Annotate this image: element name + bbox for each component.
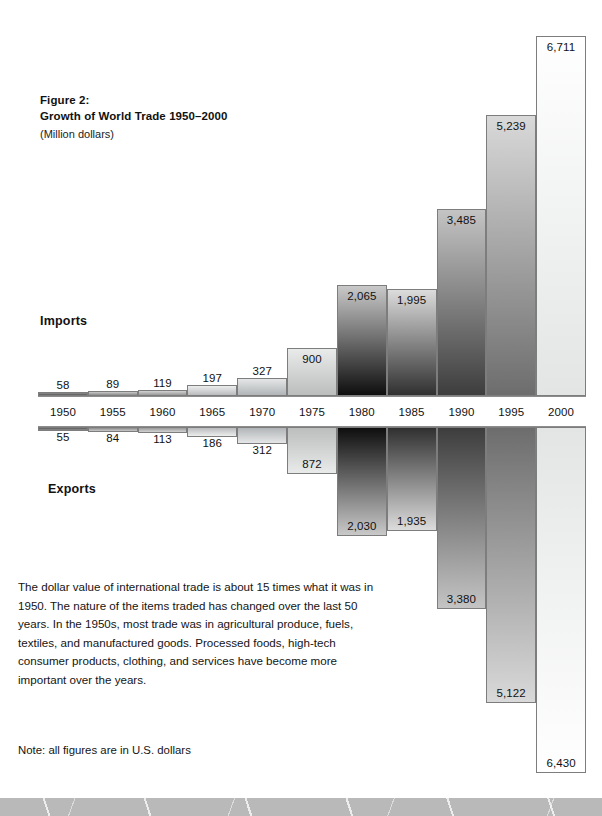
year-label-1990: 1990 [437, 396, 487, 427]
figure-note: Note: all figures are in U.S. dollars [18, 742, 378, 758]
export-bar-1970: 312 [237, 427, 287, 444]
import-bar-1970: 327 [237, 378, 287, 396]
import-value-label-1970: 327 [252, 365, 272, 377]
export-value-label-1990: 3,380 [447, 593, 476, 605]
export-bar-1975: 872 [287, 427, 337, 474]
export-bar-1965: 186 [187, 427, 237, 437]
year-label-1965: 1965 [187, 396, 237, 427]
year-label-1970: 1970 [237, 396, 287, 427]
export-value-label-1980: 2,030 [347, 520, 376, 532]
body-paragraph: The dollar value of international trade … [18, 578, 378, 690]
year-tick-labels: 1950195519601965197019751980198519901995… [38, 396, 586, 427]
export-value-label-1950: 55 [56, 431, 69, 443]
import-value-label-1960: 119 [153, 377, 172, 389]
export-bar-1955: 84 [88, 427, 138, 432]
export-value-label-1995: 5,122 [497, 687, 526, 699]
year-label-1960: 1960 [138, 396, 188, 427]
export-bar-1995: 5,122 [486, 427, 536, 703]
export-value-label-2000: 6,430 [546, 757, 575, 769]
year-label-1955: 1955 [88, 396, 138, 427]
year-label-1950: 1950 [38, 396, 88, 427]
year-label-1975: 1975 [287, 396, 337, 427]
year-label-1995: 1995 [486, 396, 536, 427]
import-value-label-1965: 197 [203, 372, 223, 384]
export-value-label-1965: 186 [203, 437, 223, 449]
import-value-label-1990: 3,485 [447, 214, 476, 226]
export-bar-1980: 2,030 [337, 427, 387, 536]
export-bar-1990: 3,380 [437, 427, 487, 609]
export-value-label-1960: 113 [153, 433, 172, 445]
footer-decoration-band [0, 798, 602, 816]
import-bar-1995: 5,239 [486, 115, 536, 396]
export-value-label-1985: 1,935 [397, 515, 426, 527]
import-bar-1975: 900 [287, 348, 337, 396]
import-value-label-1995: 5,239 [497, 120, 526, 132]
export-value-label-1975: 872 [302, 458, 322, 470]
import-bar-1985: 1,995 [387, 289, 437, 396]
import-bar-1965: 197 [187, 385, 237, 396]
import-value-label-1975: 900 [302, 353, 322, 365]
export-bar-2000: 6,430 [536, 427, 586, 773]
export-bar-1960: 113 [138, 427, 188, 433]
year-label-2000: 2000 [536, 396, 586, 427]
year-axis-band: 1950195519601965197019751980198519901995… [38, 396, 586, 427]
export-value-label-1970: 312 [252, 444, 272, 456]
import-value-label-2000: 6,711 [547, 41, 575, 53]
import-value-label-1950: 58 [56, 379, 69, 391]
year-label-1985: 1985 [387, 396, 437, 427]
import-bar-1980: 2,065 [337, 285, 387, 396]
import-bar-2000: 6,711 [536, 36, 586, 396]
export-value-label-1955: 84 [106, 432, 119, 444]
year-label-1980: 1980 [337, 396, 387, 427]
import-value-label-1955: 89 [106, 378, 119, 390]
import-value-label-1980: 2,065 [347, 290, 376, 302]
export-bar-1950: 55 [38, 427, 88, 431]
export-bar-1985: 1,935 [387, 427, 437, 531]
footer-streak-pattern [0, 798, 602, 816]
import-bar-1990: 3,485 [437, 209, 487, 396]
import-value-label-1985: 1,995 [397, 294, 426, 306]
